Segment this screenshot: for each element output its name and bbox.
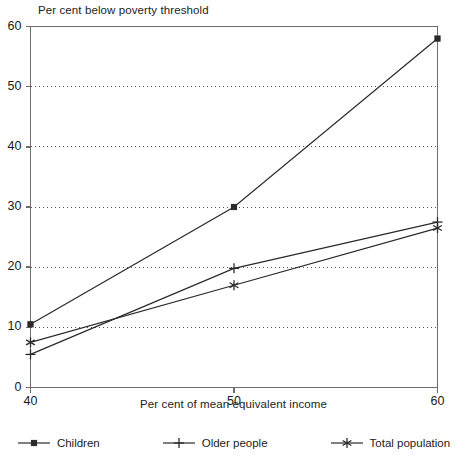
- plus-marker-icon-glyph: [174, 438, 184, 448]
- series-total-population: [26, 223, 442, 347]
- plot-area: [0, 0, 467, 461]
- y-tick-label-20: 20: [0, 259, 22, 273]
- square-marker-icon-glyph: [31, 440, 36, 445]
- legend-label: Children: [57, 437, 100, 449]
- legend-label: Older people: [202, 437, 268, 449]
- data-point-1-0: [26, 349, 36, 359]
- asterisk-marker-icon: [330, 436, 364, 450]
- plus-marker-icon: [162, 436, 196, 450]
- plot-svg: [0, 0, 467, 461]
- y-tick-label-0: 0: [0, 380, 22, 394]
- chart-root: Per cent below poverty threshold 0102030…: [0, 0, 467, 461]
- legend-item-total-population[interactable]: Total population: [330, 436, 451, 450]
- data-point-2-1: [230, 280, 239, 290]
- data-point-0-2: [435, 36, 440, 41]
- x-axis-title: Per cent of mean equivalent income: [0, 398, 467, 410]
- square-marker-icon: [17, 436, 51, 450]
- data-point-2-2: [433, 223, 442, 233]
- legend-label: Total population: [370, 437, 451, 449]
- y-tick-label-40: 40: [0, 139, 22, 153]
- data-point-2-0: [26, 337, 35, 347]
- series-layer: [26, 36, 443, 359]
- y-tick-label-50: 50: [0, 79, 22, 93]
- y-tick-label-10: 10: [0, 319, 22, 333]
- data-point-1-1: [229, 263, 239, 273]
- legend-item-older-people[interactable]: Older people: [162, 436, 268, 450]
- data-point-0-1: [231, 204, 236, 209]
- y-tick-label-30: 30: [0, 199, 22, 213]
- chart-legend: ChildrenOlder peopleTotal population: [0, 430, 467, 456]
- data-point-0-0: [28, 322, 33, 327]
- y-tick-label-60: 60: [0, 19, 22, 33]
- legend-item-children[interactable]: Children: [17, 436, 100, 450]
